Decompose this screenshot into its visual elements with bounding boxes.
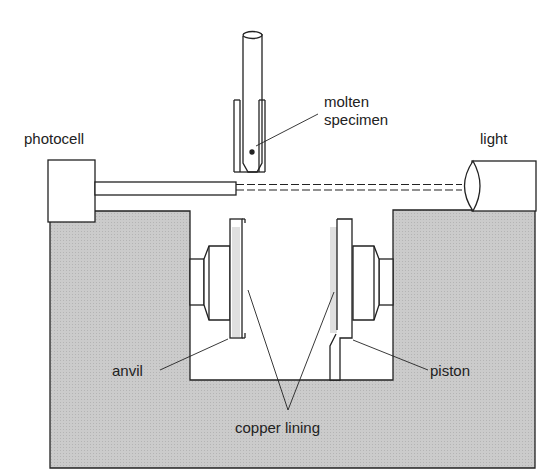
label-copper-lining: copper lining [235,420,320,436]
photocell-box [48,160,95,222]
light-box [472,161,536,211]
diagram-drawing [0,0,558,473]
specimen-dot [250,150,254,154]
apparatus-diagram: molten specimen photocell light anvil pi… [0,0,558,473]
copper-lining-right [330,227,337,333]
light-beam [236,185,462,191]
anvil-assembly [190,219,245,338]
label-molten: molten [324,94,369,110]
piston-assembly [330,219,393,380]
photocell-rod [95,182,236,195]
copper-lining-left [232,227,240,337]
label-piston: piston [430,363,470,379]
label-anvil: anvil [112,363,143,379]
label-specimen: specimen [324,112,388,128]
label-light: light [480,131,508,147]
label-photocell: photocell [24,131,84,147]
